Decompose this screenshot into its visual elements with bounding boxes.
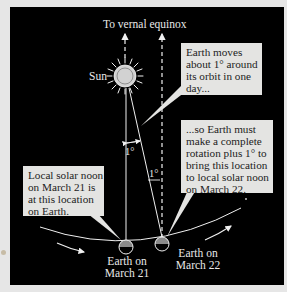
earth-march21-icon: [119, 240, 133, 254]
vernal-equinox-arrows: [125, 34, 162, 238]
earth-label-line: March 21: [100, 267, 154, 279]
callout-line: Local solar noon: [28, 169, 100, 181]
angle-label-sun: 1°: [125, 146, 134, 157]
callout-line: Earth moves: [186, 46, 258, 58]
callout-line: on March 21 is: [28, 181, 100, 193]
callout-line: on Earth.: [28, 205, 100, 217]
callout-line: about 1° around: [186, 58, 258, 70]
callout-pointers: [88, 86, 196, 240]
earth-march21-label: Earth on March 21: [100, 255, 154, 279]
sun-label: Sun: [89, 70, 107, 82]
callout-line: make a complete: [186, 135, 269, 147]
callout-line: ...so Earth must: [186, 123, 269, 135]
callout-line: day...: [186, 82, 258, 94]
angle-label-earth: 1°: [149, 168, 158, 179]
callout-line: to local solar noon: [186, 171, 269, 183]
callout-line: at this location: [28, 193, 100, 205]
callout-line: its orbit in one: [186, 70, 258, 82]
callout-line: on March 22.: [186, 183, 269, 195]
sun-icon: [107, 58, 143, 94]
callout-earth-moves: Earth moves about 1° around its orbit in…: [181, 43, 262, 95]
vernal-equinox-label: To vernal equinox: [103, 18, 187, 30]
earth-march22-label: Earth on March 22: [170, 247, 226, 271]
callout-local-noon-march21: Local solar noon on March 21 is at this …: [23, 166, 104, 216]
earth-march22-icon: [155, 237, 169, 251]
earth-label-line: Earth on: [170, 247, 226, 259]
earth-label-line: Earth on: [100, 255, 154, 267]
callout-line: rotation plus 1° to: [186, 147, 269, 159]
callout-complete-rotation: ...so Earth must make a complete rotatio…: [181, 120, 273, 193]
earth-label-line: March 22: [170, 259, 226, 271]
callout-line: bring this location: [186, 159, 269, 171]
